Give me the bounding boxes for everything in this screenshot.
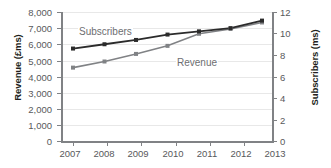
data-point — [71, 47, 75, 51]
data-point — [134, 52, 138, 56]
data-point — [229, 26, 233, 30]
line-chart: 8,000 7,000 6,000 5,000 4,000 3,000 2,00… — [0, 0, 331, 168]
data-point — [134, 38, 138, 42]
data-point — [71, 66, 75, 70]
data-point — [260, 19, 264, 23]
data-point — [197, 29, 201, 33]
plot-area — [0, 0, 331, 168]
data-point — [166, 33, 170, 37]
data-point — [166, 44, 170, 48]
data-point — [103, 60, 107, 64]
series-label-subscribers: Subscribers — [78, 26, 133, 37]
series-label-revenue: Revenue — [176, 57, 218, 68]
data-point — [103, 42, 107, 46]
